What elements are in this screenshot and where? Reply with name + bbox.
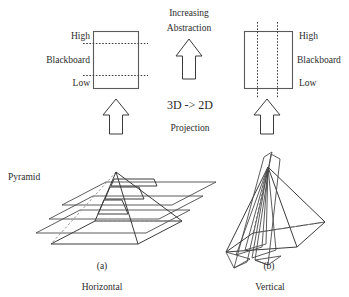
- center-label-projection-word: Projection: [152, 124, 228, 134]
- left-label-high: High: [20, 32, 90, 42]
- pyramid-horizontal-diagram: [36, 172, 216, 244]
- v-pyramid-edge-b: [268, 167, 297, 247]
- left-up-arrow: [103, 99, 129, 134]
- center-label-increasing: Increasing: [151, 9, 227, 19]
- caption-a-label: Horizontal: [72, 283, 132, 293]
- center-label-abstraction: Abstraction: [151, 24, 227, 34]
- figure-linework: [0, 0, 349, 297]
- caption-a-index: (a): [82, 262, 122, 272]
- left-label-low: Low: [20, 79, 90, 89]
- left-blackboard-rect: [94, 32, 139, 89]
- right-label-high: High: [299, 32, 318, 42]
- v-pyramid-edge-c: [268, 167, 325, 222]
- v-pyramid-edge-a: [226, 167, 268, 252]
- pyramid-label: Pyramid: [8, 173, 40, 183]
- center-up-arrow: [176, 39, 202, 79]
- caption-b-label: Vertical: [242, 283, 298, 293]
- h-section-low: [98, 200, 128, 214]
- right-label-low: Low: [299, 79, 316, 89]
- right-blackboard-rect: [245, 32, 293, 89]
- caption-b-index: (b): [249, 262, 289, 272]
- center-label-projection-formula: 3D -> 2D: [150, 99, 230, 111]
- pyramid-vertical-diagram: [226, 152, 325, 268]
- right-label-blackboard: Blackboard: [297, 56, 341, 66]
- right-up-arrow: [254, 99, 280, 134]
- left-label-blackboard: Blackboard: [8, 56, 90, 66]
- figure-canvas: High Blackboard Low Increasing Abstracti…: [0, 0, 349, 297]
